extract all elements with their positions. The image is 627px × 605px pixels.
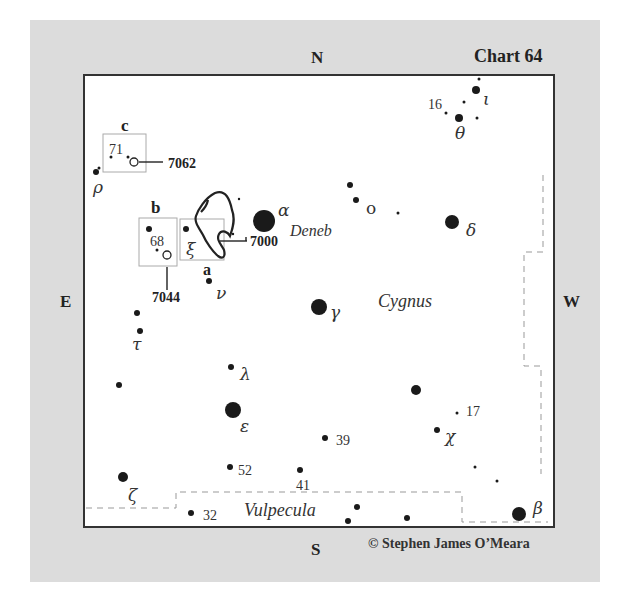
svg-text:β: β xyxy=(532,498,543,518)
star-map: α γ δ ε β ζ λ ν ξ τ ρ o θ ι χ 16 17 39 4… xyxy=(0,0,627,605)
svg-text:41: 41 xyxy=(296,478,310,493)
svg-text:c: c xyxy=(121,116,129,135)
svg-text:ζ: ζ xyxy=(128,485,139,505)
svg-text:a: a xyxy=(203,261,211,278)
svg-text:ν: ν xyxy=(216,283,226,303)
svg-text:17: 17 xyxy=(466,404,480,419)
svg-text:52: 52 xyxy=(238,463,252,478)
svg-text:16: 16 xyxy=(428,97,442,112)
svg-text:32: 32 xyxy=(203,508,217,523)
svg-text:7044: 7044 xyxy=(152,290,180,305)
svg-text:λ: λ xyxy=(239,364,251,384)
svg-text:b: b xyxy=(151,198,160,217)
svg-text:ε: ε xyxy=(240,416,249,436)
svg-text:ξ: ξ xyxy=(186,239,197,259)
svg-text:68: 68 xyxy=(150,234,164,249)
svg-text:7062: 7062 xyxy=(168,156,196,171)
svg-text:ρ: ρ xyxy=(92,177,103,197)
svg-text:τ: τ xyxy=(132,334,142,354)
svg-text:Deneb: Deneb xyxy=(289,222,332,239)
svg-text:7000: 7000 xyxy=(250,234,278,249)
label-alpha: α xyxy=(278,200,290,220)
cluster-7062-icon xyxy=(130,158,138,166)
svg-text:δ: δ xyxy=(466,220,476,240)
svg-text:ι: ι xyxy=(483,89,490,109)
svg-text:γ: γ xyxy=(330,302,341,322)
svg-text:θ: θ xyxy=(455,123,465,143)
svg-text:39: 39 xyxy=(336,433,350,448)
svg-text:χ: χ xyxy=(444,426,457,446)
svg-text:71: 71 xyxy=(109,142,123,157)
svg-text:o: o xyxy=(366,198,376,218)
svg-text:Vulpecula: Vulpecula xyxy=(244,500,316,520)
nebula-ngc7000-outline xyxy=(196,192,234,257)
svg-text:Cygnus: Cygnus xyxy=(378,291,432,311)
cluster-7044-icon xyxy=(163,251,171,259)
